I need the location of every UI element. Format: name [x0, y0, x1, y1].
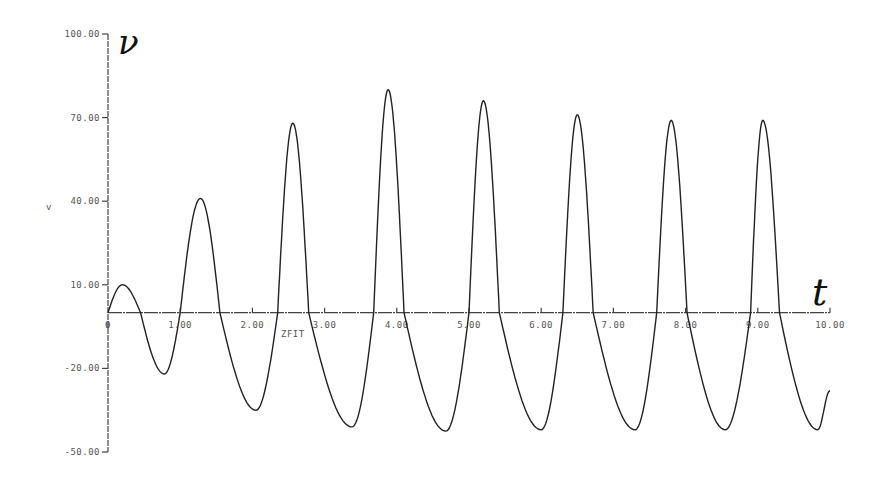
data-curve — [108, 90, 830, 431]
y-axis-label: v — [46, 202, 52, 212]
x-tick-label: 10.00 — [815, 320, 845, 330]
x-tick-label: 8.00 — [674, 320, 698, 330]
x-tick-label: 2.00 — [241, 320, 265, 330]
x-tick-label: 3.00 — [313, 320, 337, 330]
x-tick-label: 5.00 — [457, 320, 481, 330]
y-tick-label: 40.00 — [70, 196, 100, 206]
handwritten-t-label: t — [812, 270, 828, 314]
x-tick-label: 1.00 — [168, 320, 192, 330]
y-axis: 100.0070.0040.0010.00-20.00-50.00 — [64, 29, 108, 457]
y-tick-label: 10.00 — [70, 280, 100, 290]
x-tick-label: 6.00 — [529, 320, 553, 330]
x-axis-label: ZFIT — [281, 329, 305, 339]
x-tick-label: 4.00 — [385, 320, 409, 330]
handwritten-v-label: ν — [118, 22, 139, 62]
line-chart: 100.0070.0040.0010.00-20.00-50.00 01.002… — [0, 0, 892, 485]
y-tick-label: 100.00 — [64, 29, 100, 39]
x-tick-label: 7.00 — [602, 320, 626, 330]
x-axis: 01.002.003.004.005.006.007.008.009.0010.… — [105, 308, 845, 330]
y-tick-label: -20.00 — [64, 363, 100, 373]
x-tick-label: 0 — [105, 320, 111, 330]
y-tick-label: -50.00 — [64, 447, 100, 457]
y-tick-label: 70.00 — [70, 113, 100, 123]
